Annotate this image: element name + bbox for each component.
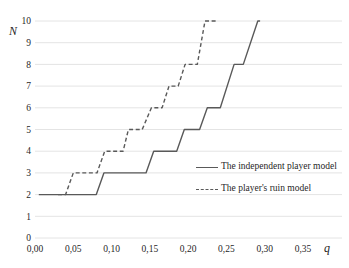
y-tick-label: 10 (22, 16, 32, 26)
legend-label: The independent player model (221, 162, 337, 172)
chart-figure: 0123456789100,000,050,100,150,200,250,30… (0, 0, 349, 268)
y-tick-label: 1 (26, 212, 31, 222)
y-tick-label: 6 (26, 103, 31, 113)
x-tick-label: 0,35 (295, 244, 312, 254)
y-tick-label: 7 (26, 81, 31, 91)
y-tick-label: 2 (26, 190, 31, 200)
legend-item-independent-model: The independent player model (196, 160, 337, 174)
x-tick-label: 0,15 (142, 244, 159, 254)
solid-line-icon (196, 167, 218, 168)
x-tick-label: 0,25 (218, 244, 235, 254)
x-tick-label: 0,10 (103, 244, 120, 254)
dashed-line-icon (196, 189, 218, 190)
y-tick-label: 0 (26, 233, 31, 243)
y-tick-label: 9 (26, 38, 31, 48)
y-axis-title: N (9, 25, 17, 37)
x-tick-label: 0,20 (180, 244, 197, 254)
plot-area: 0123456789100,000,050,100,150,200,250,30… (0, 0, 349, 268)
legend: The independent player model The player'… (196, 160, 337, 204)
x-axis-title: q (324, 242, 330, 254)
x-tick-label: 0,00 (27, 244, 44, 254)
y-tick-label: 4 (26, 146, 31, 156)
legend-item-ruin-model: The player's ruin model (196, 182, 337, 196)
x-tick-label: 0,30 (256, 244, 273, 254)
y-tick-label: 5 (26, 125, 31, 135)
y-tick-label: 3 (26, 168, 31, 178)
x-tick-label: 0,05 (65, 244, 82, 254)
y-tick-label: 8 (26, 60, 31, 70)
legend-label: The player's ruin model (221, 184, 311, 194)
